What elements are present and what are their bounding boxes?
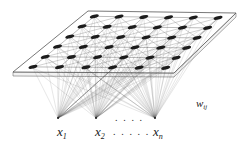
input-label-xn: xn xyxy=(153,125,163,141)
input-node-x2 xyxy=(95,117,97,119)
input-label-x1: x1 xyxy=(57,125,67,141)
weight-label-wij: wij xyxy=(196,98,207,111)
weight-label-sub: ij xyxy=(203,103,207,110)
input-label-x1-sub: 1 xyxy=(63,132,67,141)
input-label-x2: x2 xyxy=(95,125,105,141)
ellipsis-upper: . . . . xyxy=(115,112,144,123)
diagram-canvas xyxy=(0,0,248,146)
input-node-xn xyxy=(154,117,156,119)
ellipsis-lower: . . . . . xyxy=(113,126,150,137)
input-label-xn-sub: n xyxy=(159,132,163,141)
som-diagram: x1 x2 xn wij . . . . . . . . . xyxy=(0,0,248,146)
input-label-x2-sub: 2 xyxy=(101,132,105,141)
input-node-x1 xyxy=(57,117,59,119)
